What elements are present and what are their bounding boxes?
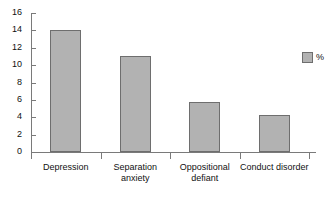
- x-axis-category-label: Depression: [31, 162, 101, 173]
- y-axis-tick: 16: [0, 13, 31, 14]
- bar: [189, 102, 220, 152]
- x-axis-line: [31, 152, 316, 153]
- x-axis-category-label: Oppositional defiant: [170, 162, 240, 184]
- y-axis-tick-label: 10: [12, 59, 22, 70]
- y-axis-tick: 6: [0, 100, 31, 101]
- y-axis-tick: 0: [0, 152, 31, 153]
- x-axis-category-label: Separation anxiety: [101, 162, 171, 184]
- legend: %: [302, 52, 324, 63]
- y-axis-tick-label: 8: [17, 77, 22, 88]
- y-axis-tick-label: 0: [17, 146, 22, 157]
- x-axis-separator-tick: [31, 153, 32, 159]
- x-axis-separator-tick: [240, 153, 241, 159]
- plot-area: [31, 13, 309, 152]
- y-axis-tick: 10: [0, 65, 31, 66]
- y-axis-tick: 4: [0, 117, 31, 118]
- bar: [259, 115, 290, 152]
- y-axis-tick-label: 4: [17, 111, 22, 122]
- bar: [50, 30, 81, 152]
- x-axis-separator-tick: [309, 153, 310, 159]
- legend-label-percent: %: [316, 52, 324, 63]
- x-axis-category-label: Conduct disorder: [240, 162, 310, 173]
- y-axis-tick: 14: [0, 30, 31, 31]
- y-axis-tick-label: 16: [12, 7, 22, 18]
- bar: [120, 56, 151, 152]
- y-axis-tick-label: 12: [12, 42, 22, 53]
- x-axis-separator-tick: [170, 153, 171, 159]
- y-axis-tick: 8: [0, 83, 31, 84]
- y-axis-tick: 2: [0, 135, 31, 136]
- legend-swatch-percent: [302, 52, 313, 63]
- y-axis-tick-label: 2: [17, 129, 22, 140]
- bar-chart: 0246810121416 DepressionSeparation anxie…: [0, 0, 335, 198]
- x-axis-separator-tick: [101, 153, 102, 159]
- y-axis-tick-label: 14: [12, 24, 22, 35]
- y-axis-tick: 12: [0, 48, 31, 49]
- y-axis-tick-label: 6: [17, 94, 22, 105]
